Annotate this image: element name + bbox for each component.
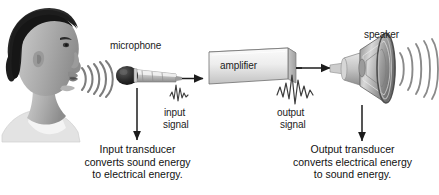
speaker-label: speaker	[364, 29, 399, 40]
loudspeaker-icon	[330, 33, 395, 103]
input-signal-label-line2: signal	[163, 119, 189, 130]
input-signal-label-line1: input	[164, 107, 185, 118]
sound-wave-arcs-icon-mouth	[82, 61, 113, 97]
person-head-profile-icon	[2, 8, 81, 142]
right-caption-output-transducer: Output transducer converts electrical en…	[270, 143, 435, 181]
microphone-label: microphone	[110, 40, 161, 51]
output-signal-label-line1: output	[277, 107, 304, 118]
left-caption-input-transducer: Input transducer converts sound energy t…	[40, 143, 235, 181]
output-signal-label-line2: signal	[280, 119, 306, 130]
microphone-icon	[116, 66, 182, 85]
figure-sound-transducer-diagram: microphone amplifier speaker input signa…	[0, 0, 439, 195]
small-waveform-icon	[170, 85, 188, 101]
amplifier-label: amplifier	[220, 60, 257, 71]
sound-wave-arcs-icon-speaker	[400, 39, 438, 99]
